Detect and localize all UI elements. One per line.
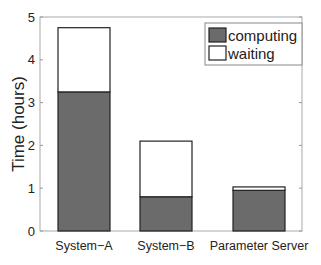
stacked-bar-chart: 012345Time (hours)System−ASystem−BParame… — [0, 0, 321, 265]
plot-area: 012345Time (hours)System−ASystem−BParame… — [9, 10, 308, 254]
bar-segment-computing — [140, 197, 192, 231]
legend-label-computing: computing — [228, 27, 297, 44]
x-category-label: System−A — [55, 239, 113, 253]
y-axis-label: Time (hours) — [9, 76, 28, 172]
legend-label-waiting: waiting — [227, 45, 275, 62]
bar-segment-waiting — [140, 141, 192, 197]
bar-segment-waiting — [233, 187, 285, 190]
bar-segment-waiting — [58, 28, 110, 92]
bar-segment-computing — [233, 190, 285, 231]
bar-segment-computing — [58, 92, 110, 231]
legend-swatch-waiting — [209, 46, 226, 60]
y-tick-label: 3 — [28, 95, 35, 110]
y-tick-label: 0 — [28, 224, 35, 239]
x-category-label: Parameter Server — [210, 239, 309, 253]
y-tick-label: 4 — [28, 52, 35, 67]
legend-swatch-computing — [209, 28, 226, 42]
y-tick-label: 2 — [28, 138, 35, 153]
y-tick-label: 1 — [28, 181, 35, 196]
x-category-label: System−B — [137, 239, 194, 253]
y-tick-label: 5 — [28, 10, 35, 25]
